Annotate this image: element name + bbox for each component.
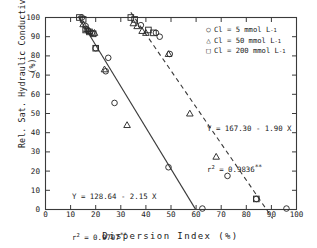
legend-unit-exponent: -1 <box>270 25 277 36</box>
annotation-equation: Y = 167.30 - 1.90 X <box>207 123 292 136</box>
legend: ○ Cl = 5 mmol L-1 △ Cl = 50 mmol L-1 □ C… <box>203 25 285 57</box>
square-marker-icon: □ <box>203 46 214 57</box>
x-tick-label: 30 <box>113 210 129 219</box>
data-point-triangle <box>124 122 131 128</box>
y-tick-label: 70 <box>23 71 40 80</box>
legend-unit-exponent: -1 <box>279 46 286 57</box>
y-tick-label: 10 <box>23 186 40 195</box>
y-tick-label: 60 <box>23 90 40 99</box>
circle-marker-icon: ○ <box>203 25 214 36</box>
legend-item: ○ Cl = 5 mmol L-1 <box>203 25 285 36</box>
r-exponent: 2 <box>76 232 79 238</box>
y-tick-label: 40 <box>23 128 40 137</box>
r-exponent: 2 <box>211 164 214 170</box>
legend-unit-exponent: -1 <box>275 36 282 47</box>
figure-scatter-plot: Rel. Sat. Hydraulic Conductivity (%) Dis… <box>0 0 317 248</box>
triangle-marker-icon: △ <box>203 36 214 47</box>
x-tick-label: 100 <box>289 210 305 219</box>
legend-label: Cl = 200 mmol L <box>214 46 279 57</box>
y-tick-label: 50 <box>23 109 40 118</box>
x-tick-label: 90 <box>263 210 279 219</box>
legend-item: △ Cl = 50 mmol L-1 <box>203 36 285 47</box>
y-tick-label: 100 <box>23 13 40 22</box>
x-tick-label: 40 <box>138 210 154 219</box>
x-tick-label: 60 <box>188 210 204 219</box>
x-tick-label: 50 <box>163 210 179 219</box>
x-tick-label: 10 <box>63 210 79 219</box>
annotation-r-squared: r2 = 0.9836** <box>207 161 292 177</box>
legend-label: Cl = 50 mmol L <box>214 36 275 47</box>
y-tick-label: 30 <box>23 147 40 156</box>
y-tick-label: 20 <box>23 167 40 176</box>
legend-label: Cl = 5 mmol L <box>214 25 270 36</box>
data-point-circle <box>105 55 111 61</box>
y-tick-label: 0 <box>23 205 40 214</box>
y-tick-label: 90 <box>23 32 40 41</box>
x-tick-label: 80 <box>238 210 254 219</box>
x-tick-label: 20 <box>88 210 104 219</box>
annotation-left-regression: Y = 128.64 - 2.15 X r2 = 0.9707** <box>72 166 157 248</box>
annotation-right-regression: Y = 167.30 - 1.90 X r2 = 0.9836** <box>207 98 292 201</box>
significance-stars: ** <box>120 231 127 239</box>
data-point-circle <box>157 34 163 40</box>
legend-item: □ Cl = 200 mmol L-1 <box>203 46 285 57</box>
significance-stars: ** <box>255 163 262 171</box>
x-tick-label: 70 <box>213 210 229 219</box>
annotation-r-squared: r2 = 0.9707** <box>72 229 157 245</box>
annotation-equation: Y = 128.64 - 2.15 X <box>72 191 157 204</box>
data-point-circle <box>112 100 118 106</box>
r-value: = 0.9836 <box>219 165 255 174</box>
y-tick-label: 80 <box>23 51 40 60</box>
r-value: = 0.9707 <box>84 233 120 242</box>
data-point-triangle <box>187 110 194 116</box>
